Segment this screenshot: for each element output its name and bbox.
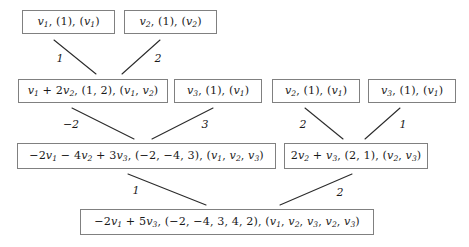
edge-label-e4: 3 xyxy=(202,118,209,131)
edge-label-e1: 1 xyxy=(57,52,64,65)
edge-label-e5: 2 xyxy=(300,118,307,131)
node-label: −2v1 + 5v3, (−2, −4, 3, 4, 2), (v1, v2, … xyxy=(94,216,360,228)
node-n8: 2v2 + v3, (2, 1), (v2, v3) xyxy=(284,143,428,169)
node-n3: v1 + 2v2, (1, 2), (v1, v2) xyxy=(18,79,168,103)
node-n7: −2v1 − 4v2 + 3v3, (−2, −4, 3), (v1, v2, … xyxy=(17,143,276,169)
edge-n6-to-n8 xyxy=(365,108,400,139)
node-n6: v3, (1), (v1) xyxy=(368,79,456,103)
node-n2: v2, (1), (v2) xyxy=(124,10,217,34)
edge-label-e6: 1 xyxy=(400,118,407,131)
node-label: −2v1 − 4v2 + 3v3, (−2, −4, 3), (v1, v2, … xyxy=(29,150,264,162)
edge-label-e7: 1 xyxy=(133,184,140,197)
node-label: v1, (1), (v1) xyxy=(37,16,99,28)
edge-n7-to-n9 xyxy=(128,174,206,205)
edge-label-e8: 2 xyxy=(337,186,344,199)
node-label: v2, (1), (v1) xyxy=(285,85,347,97)
edge-label-e3: −2 xyxy=(63,118,79,131)
edge-label-e2: 2 xyxy=(155,52,162,65)
node-label: v1 + 2v2, (1, 2), (v1, v2) xyxy=(28,85,159,97)
node-label: 2v2 + v3, (2, 1), (v2, v3) xyxy=(291,150,422,162)
edge-n5-to-n8 xyxy=(305,108,343,139)
node-label: v2, (1), (v2) xyxy=(139,16,201,28)
node-n5: v2, (1), (v1) xyxy=(272,79,360,103)
node-label: v3, (1), (v1) xyxy=(381,85,443,97)
node-n1: v1, (1), (v1) xyxy=(22,10,115,34)
node-n9: −2v1 + 5v3, (−2, −4, 3, 4, 2), (v1, v2, … xyxy=(80,209,374,235)
node-n4: v3, (1), (v1) xyxy=(174,79,262,103)
edge-n3-to-n7 xyxy=(72,108,134,139)
derivation-tree-diagram: v1, (1), (v1)v2, (1), (v2)v1 + 2v2, (1, … xyxy=(0,0,469,247)
node-label: v3, (1), (v1) xyxy=(187,85,249,97)
